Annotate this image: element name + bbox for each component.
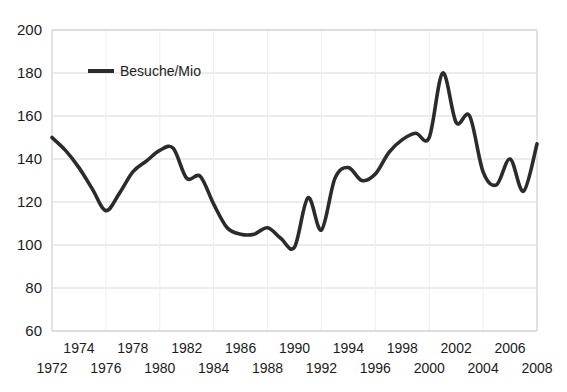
y-tick-label: 120	[2, 194, 42, 209]
x-tick-label: 2002	[431, 341, 481, 355]
x-tick-label: 1986	[216, 341, 266, 355]
x-tick-label: 1976	[81, 361, 131, 375]
legend: Besuche/Mio	[88, 63, 201, 79]
y-tick-label: 180	[2, 65, 42, 80]
x-tick-label: 1984	[189, 361, 239, 375]
legend-line-swatch	[88, 69, 114, 73]
x-tick-label: 1996	[350, 361, 400, 375]
line-chart: 2001801601401201008060 19741978198219861…	[0, 0, 567, 392]
y-tick-label: 100	[2, 237, 42, 252]
series-layer	[52, 73, 537, 249]
y-tick-label: 140	[2, 151, 42, 166]
x-tick-label: 1982	[162, 341, 212, 355]
plot-canvas	[0, 0, 567, 392]
x-tick-label: 1980	[135, 361, 185, 375]
x-tick-label: 1990	[270, 341, 320, 355]
y-tick-label: 80	[2, 280, 42, 295]
x-tick-label: 1992	[296, 361, 346, 375]
x-tick-label: 1988	[243, 361, 293, 375]
x-tick-label: 1974	[54, 341, 104, 355]
x-tick-label: 1998	[377, 341, 427, 355]
x-tick-label: 2004	[458, 361, 508, 375]
y-tick-label: 60	[2, 323, 42, 338]
x-tick-label: 2008	[512, 361, 562, 375]
y-tick-label: 200	[2, 22, 42, 37]
x-tick-label: 2000	[404, 361, 454, 375]
y-tick-label: 160	[2, 108, 42, 123]
x-tick-label: 2006	[485, 341, 535, 355]
x-tick-label: 1972	[27, 361, 77, 375]
x-tick-label: 1978	[108, 341, 158, 355]
series-line-0	[52, 73, 537, 249]
legend-label: Besuche/Mio	[120, 63, 201, 79]
x-tick-label: 1994	[323, 341, 373, 355]
